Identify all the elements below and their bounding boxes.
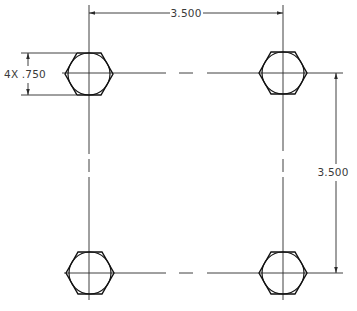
drawing-canvas: 3.500 3.500 4X .750 [0,0,357,311]
dim-horizontal-label: 3.500 [170,7,201,19]
technical-drawing: 3.500 3.500 4X .750 [0,0,357,311]
dim-diameter-label: 4X .750 [4,68,46,80]
dimension-horizontal: 3.500 [89,7,283,19]
bolt-group [65,52,307,294]
dimension-vertical: 3.500 [314,73,354,273]
dim-vertical-label: 3.500 [317,166,348,178]
